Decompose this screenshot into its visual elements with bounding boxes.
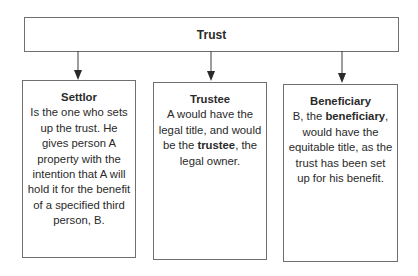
- arrow-down-icon: [72, 51, 84, 81]
- beneficiary-title: Beneficiary: [288, 94, 393, 109]
- trust-box: Trust: [24, 17, 399, 52]
- beneficiary-term: beneficiary: [325, 110, 385, 122]
- beneficiary-description: B, the beneficiary, would have the equit…: [289, 110, 393, 184]
- settlor-title: Settlor: [27, 90, 131, 105]
- trust-title: Trust: [197, 28, 226, 42]
- trustee-title: Trustee: [158, 92, 262, 107]
- trustee-description: A would have the legal title, and would …: [159, 108, 261, 166]
- trustee-term: trustee: [197, 139, 235, 151]
- beneficiary-box: Beneficiary B, the beneficiary, would ha…: [283, 84, 398, 262]
- settlor-description: Is the one who sets up the trust. He giv…: [28, 106, 130, 226]
- trustee-box: Trustee A would have the legal title, an…: [153, 82, 267, 260]
- settlor-text: Is the one who sets up the trust. He giv…: [28, 106, 130, 226]
- arrow-down-icon: [336, 51, 348, 84]
- arrow-down-icon: [205, 51, 217, 82]
- settlor-box: Settlor Is the one who sets up the trust…: [22, 80, 136, 258]
- beneficiary-text-1: B, the: [293, 110, 326, 122]
